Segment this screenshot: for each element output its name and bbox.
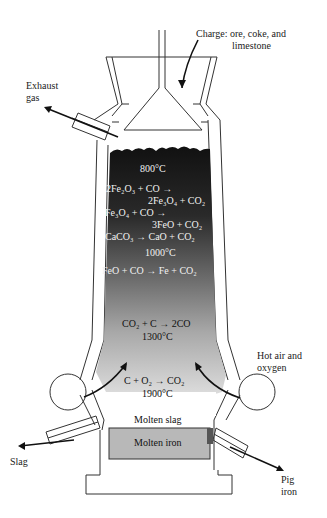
reaction-5: CO₂ + C → 2CO [122,318,191,330]
reaction-2-lhs: Fe₃O₄ + CO → [105,207,166,219]
reaction-3: CaCO₃ → CaO + CO₂ [105,231,195,243]
hot-air-label-2: oxygen [257,362,286,374]
temp-1900: 1900°C [142,388,173,400]
exhaust-label-2: gas [26,92,39,104]
reaction-1-rhs: 2Fe₃O₄ + CO₂ [148,195,205,207]
pig-iron-label: Pig [281,474,294,486]
exhaust-label: Exhaust [26,80,58,92]
charge-label: Charge: ore, coke, and [196,28,286,40]
reaction-4: FeO + CO → Fe + CO₂ [102,265,197,277]
molten-iron-label: Molten iron [134,437,182,449]
reaction-2-rhs: 3FeO + CO₂ [152,219,202,231]
temp-800: 800°C [140,163,166,175]
pig-iron-label-2: iron [281,486,297,498]
reaction-6: C + O₂ → CO₂ [124,375,184,387]
hot-air-label: Hot air and [257,350,302,362]
reaction-1-lhs: 2Fe₂O₃ + CO → [106,183,172,195]
molten-slag-label: Molten slag [134,414,182,426]
temp-1300: 1300°C [142,331,173,343]
slag-label: Slag [10,456,28,468]
temp-1000: 1000°C [145,247,176,259]
charge-label-2: limestone [232,40,271,52]
